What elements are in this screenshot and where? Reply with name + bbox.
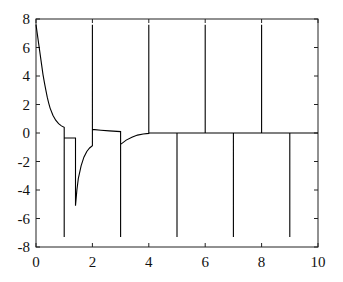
- x-tick-label: 2: [89, 254, 97, 270]
- y-tick-label: 2: [23, 97, 31, 113]
- y-tick-label: -2: [18, 154, 31, 170]
- signal-line: [36, 25, 318, 237]
- x-tick-label: 6: [201, 254, 209, 270]
- x-tick-label: 8: [258, 254, 266, 270]
- line-chart: 024681086420-2-4-6-8: [0, 0, 343, 282]
- x-tick-label: 0: [32, 254, 40, 270]
- x-tick-label: 10: [311, 254, 326, 270]
- y-tick-label: -6: [18, 211, 31, 227]
- x-tick-label: 4: [145, 254, 153, 270]
- y-tick-label: -4: [18, 182, 31, 198]
- y-tick-label: 8: [23, 11, 31, 27]
- y-tick-label: -8: [18, 239, 31, 255]
- y-tick-label: 0: [23, 125, 31, 141]
- y-tick-label: 6: [23, 40, 31, 56]
- y-tick-label: 4: [23, 68, 31, 84]
